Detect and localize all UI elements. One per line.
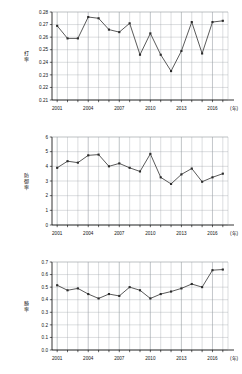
data-point-marker xyxy=(201,286,203,288)
data-point-marker xyxy=(211,21,213,23)
data-point-marker xyxy=(201,52,203,54)
data-point-marker xyxy=(87,293,89,295)
y-axis-title: 防御率 xyxy=(24,172,29,190)
data-point-marker xyxy=(66,289,68,291)
data-point-marker xyxy=(108,165,110,167)
data-point-marker xyxy=(180,50,182,52)
data-point-marker xyxy=(77,37,79,39)
data-point-marker xyxy=(211,176,213,178)
y-tick-label: 0.4 xyxy=(42,297,49,302)
x-tick-label: 2016 xyxy=(207,231,218,236)
data-point-marker xyxy=(87,154,89,156)
data-point-marker xyxy=(56,25,58,27)
x-tick-label: 2004 xyxy=(83,231,94,236)
data-point-marker xyxy=(170,70,172,72)
y-tick-label: 0.5 xyxy=(42,285,49,290)
data-point-marker xyxy=(118,162,120,164)
y-tick-label: 0.6 xyxy=(42,272,49,277)
data-point-marker xyxy=(118,31,120,33)
win-rate-chart: 0.00.10.20.30.40.50.60.72001200420072010… xyxy=(0,250,242,374)
x-tick-label: 2010 xyxy=(145,106,156,111)
y-tick-label: 0.2 xyxy=(42,323,49,328)
data-point-marker xyxy=(149,32,151,34)
data-point-marker xyxy=(87,16,89,18)
x-tick-label: 2016 xyxy=(207,106,218,111)
data-point-marker xyxy=(160,54,162,56)
x-axis-unit-label: (年) xyxy=(230,105,239,112)
data-point-marker xyxy=(56,284,58,286)
batting-average-chart: 0.210.220.230.240.250.260.270.2820012004… xyxy=(0,0,242,124)
y-tick-label: 0.25 xyxy=(39,47,48,52)
earned-run-average-chart: 0123456200120042007201020132016(年)防御率 xyxy=(0,125,242,249)
y-tick-label: 5 xyxy=(45,149,48,154)
data-point-marker xyxy=(170,183,172,185)
charts-page: 0.210.220.230.240.250.260.270.2820012004… xyxy=(0,0,242,374)
x-tick-label: 2010 xyxy=(145,356,156,361)
x-tick-label: 2001 xyxy=(52,356,63,361)
data-point-marker xyxy=(191,167,193,169)
data-point-marker xyxy=(160,293,162,295)
batting-average-plot: 0.210.220.230.240.250.260.270.2820012004… xyxy=(0,0,242,124)
data-point-marker xyxy=(108,29,110,31)
data-point-marker xyxy=(129,286,131,288)
y-tick-label: 0.21 xyxy=(39,98,48,103)
data-point-marker xyxy=(149,153,151,155)
data-point-marker xyxy=(149,297,151,299)
data-point-marker xyxy=(139,170,141,172)
data-point-marker xyxy=(108,293,110,295)
x-tick-label: 2013 xyxy=(176,106,187,111)
data-point-marker xyxy=(129,22,131,24)
data-point-marker xyxy=(191,21,193,23)
earned-run-average-plot: 0123456200120042007201020132016(年)防御率 xyxy=(0,125,242,249)
x-tick-label: 2013 xyxy=(176,356,187,361)
y-tick-label: 6 xyxy=(45,135,48,140)
data-point-marker xyxy=(139,289,141,291)
data-point-marker xyxy=(201,181,203,183)
x-tick-label: 2010 xyxy=(145,231,156,236)
y-tick-label: 0.0 xyxy=(42,348,49,353)
y-tick-label: 3 xyxy=(45,179,48,184)
y-tick-label: 0.23 xyxy=(39,73,48,78)
x-tick-label: 2001 xyxy=(52,106,63,111)
y-tick-label: 0.27 xyxy=(39,22,48,27)
y-tick-label: 0.7 xyxy=(42,260,49,265)
y-tick-label: 0.22 xyxy=(39,85,48,90)
data-point-marker xyxy=(211,269,213,271)
y-tick-label: 2 xyxy=(45,193,48,198)
y-tick-label: 4 xyxy=(45,164,48,169)
data-point-marker xyxy=(222,268,224,270)
x-axis-unit-label: (年) xyxy=(230,355,239,362)
data-point-marker xyxy=(129,167,131,169)
y-axis-title: 勝率 xyxy=(24,300,29,313)
y-tick-label: 0.1 xyxy=(42,335,49,340)
y-tick-label: 1 xyxy=(45,208,48,213)
x-tick-label: 2004 xyxy=(83,106,94,111)
data-point-marker xyxy=(139,54,141,56)
data-point-marker xyxy=(191,283,193,285)
data-point-marker xyxy=(56,167,58,169)
data-point-marker xyxy=(77,287,79,289)
data-point-marker xyxy=(222,20,224,22)
x-tick-label: 2013 xyxy=(176,231,187,236)
y-tick-label: 0.26 xyxy=(39,35,48,40)
y-axis-title: 打率 xyxy=(24,50,29,63)
x-tick-label: 2016 xyxy=(207,356,218,361)
data-point-marker xyxy=(180,173,182,175)
y-tick-label: 0 xyxy=(45,223,48,228)
data-point-marker xyxy=(98,297,100,299)
data-point-marker xyxy=(170,290,172,292)
data-point-marker xyxy=(118,295,120,297)
x-axis-unit-label: (年) xyxy=(230,230,239,237)
data-point-marker xyxy=(222,173,224,175)
data-point-marker xyxy=(66,37,68,39)
y-tick-label: 0.3 xyxy=(42,310,49,315)
x-tick-label: 2007 xyxy=(114,231,125,236)
data-point-marker xyxy=(98,154,100,156)
y-tick-label: 0.28 xyxy=(39,10,48,15)
data-point-marker xyxy=(180,287,182,289)
x-tick-label: 2001 xyxy=(52,231,63,236)
x-tick-label: 2004 xyxy=(83,356,94,361)
data-point-marker xyxy=(66,160,68,162)
x-tick-label: 2007 xyxy=(114,356,125,361)
data-point-marker xyxy=(160,176,162,178)
